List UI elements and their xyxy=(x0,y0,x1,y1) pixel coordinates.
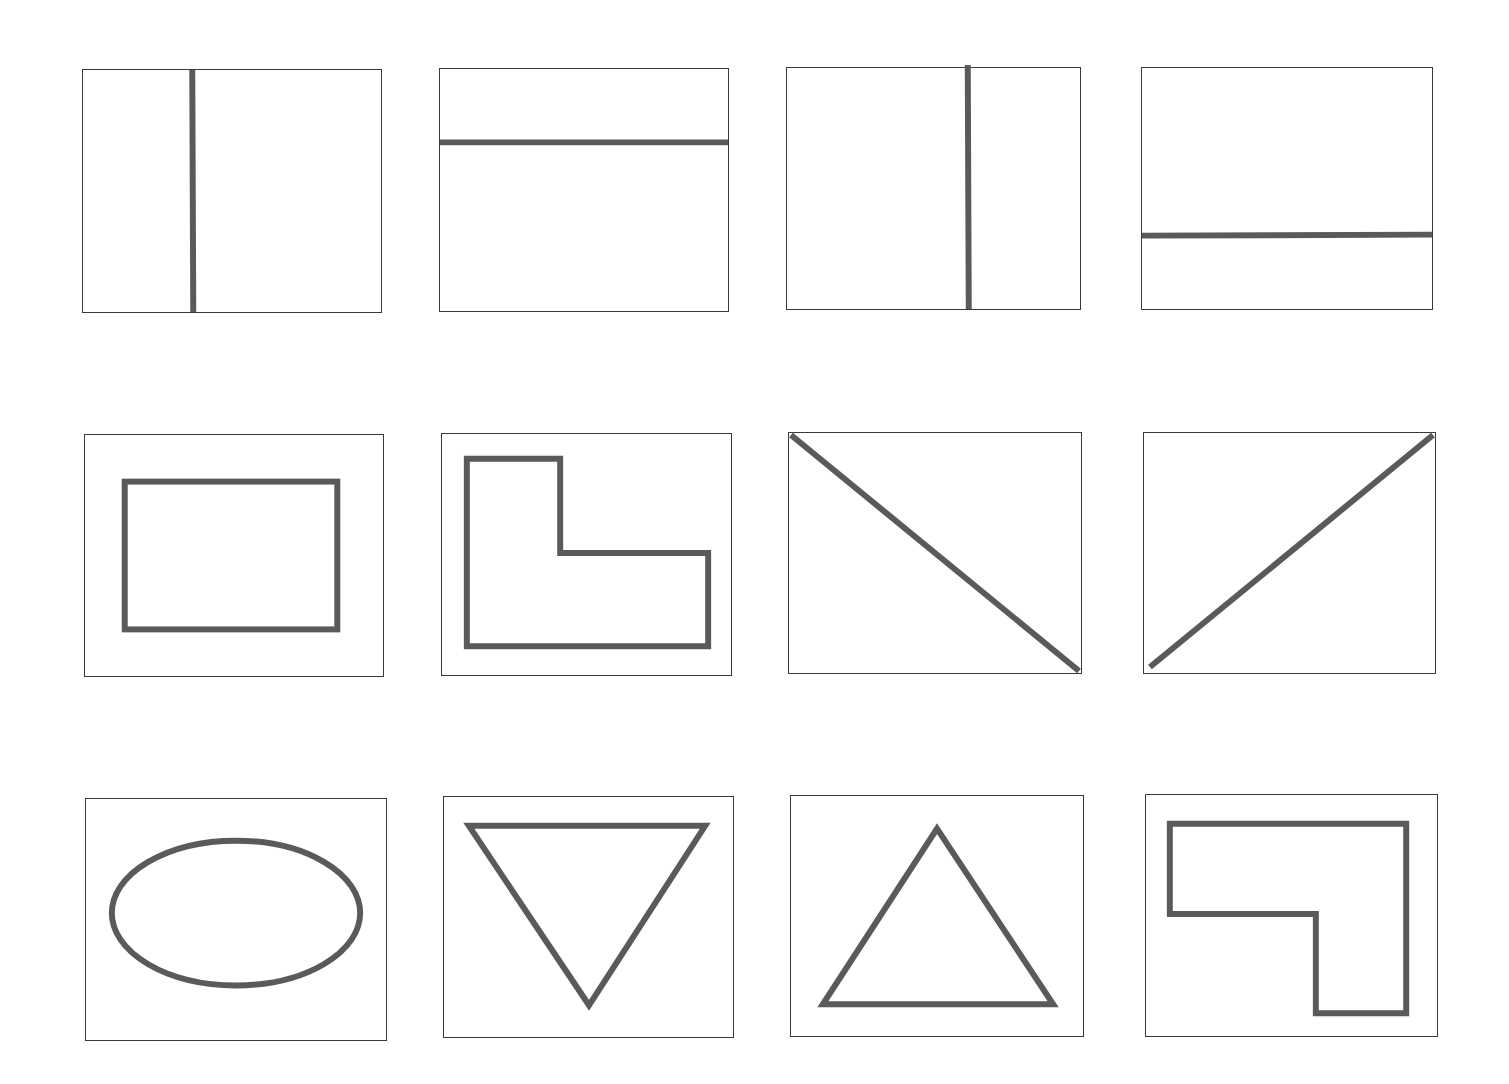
inverted-triangle-icon xyxy=(444,797,733,1037)
panel-inverted-triangle xyxy=(443,796,734,1038)
panel-horizontal-line-1 xyxy=(439,68,729,312)
panel-triangle xyxy=(790,795,1084,1037)
mirrored-l-shape-icon xyxy=(1146,795,1437,1036)
panel-diagonal-ascending xyxy=(1143,432,1436,674)
panel-l-shape xyxy=(441,433,732,676)
panel-mirrored-l-shape xyxy=(1145,794,1438,1037)
vertical-line-icon xyxy=(83,70,381,312)
panel-ellipse xyxy=(85,798,387,1041)
ellipse-icon xyxy=(86,799,386,1040)
rectangle-icon xyxy=(85,435,383,676)
triangle-icon xyxy=(791,796,1083,1036)
horizontal-line-icon xyxy=(440,69,728,311)
panel-vertical-line-1 xyxy=(82,69,382,313)
panel-rectangle xyxy=(84,434,384,677)
horizontal-line-icon xyxy=(1142,68,1432,309)
diagonal-line-icon xyxy=(1144,433,1435,673)
panel-diagonal-descending xyxy=(788,432,1082,674)
diagonal-line-icon xyxy=(789,433,1081,673)
panel-horizontal-line-2 xyxy=(1141,67,1433,310)
l-shape-icon xyxy=(442,434,731,675)
vertical-line-icon xyxy=(787,68,1080,309)
panel-vertical-line-2 xyxy=(786,67,1081,310)
